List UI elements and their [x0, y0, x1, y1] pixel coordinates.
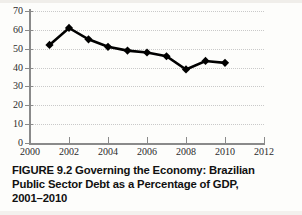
page-bottom-edge [0, 211, 302, 215]
x-axis-tick-label: 2002 [52, 146, 86, 157]
x-axis-tick-label: 2006 [130, 146, 164, 157]
y-axis-tick-label: 10 [1, 118, 23, 129]
gridline [30, 49, 264, 50]
data-point-marker [162, 52, 170, 60]
caption-line-2: Public Sector Debt as a Percentage of GD… [12, 177, 294, 191]
gridline [30, 105, 264, 106]
caption-line-3: 2001–2010 [12, 191, 294, 205]
y-axis-tick-label: 30 [1, 80, 23, 91]
x-axis-tick-label: 2000 [13, 146, 47, 157]
y-axis-tick-label: 50 [1, 43, 23, 54]
y-axis-line [29, 9, 31, 145]
y-axis-tick-label: 60 [1, 24, 23, 35]
caption-line-1: FIGURE 9.2 Governing the Economy: Brazil… [12, 163, 294, 177]
data-series-svg [0, 0, 302, 160]
figure-caption: FIGURE 9.2 Governing the Economy: Brazil… [12, 163, 294, 206]
y-axis-tick-label: 40 [1, 62, 23, 73]
x-axis-tick-label: 2004 [91, 146, 125, 157]
gridline [30, 68, 264, 69]
gridline [30, 124, 264, 125]
x-axis-tick-label: 2012 [247, 146, 281, 157]
gridline [30, 30, 264, 31]
x-axis-line [29, 143, 265, 145]
figure-page: 010203040506070 200020022004200620082010… [0, 0, 302, 215]
line-chart: 010203040506070 200020022004200620082010… [0, 0, 302, 160]
data-point-marker [84, 35, 92, 43]
data-point-marker [201, 57, 209, 65]
gridline [30, 86, 264, 87]
gridline [30, 11, 264, 12]
x-axis-tick-label: 2010 [208, 146, 242, 157]
y-axis-tick-label: 70 [1, 5, 23, 16]
y-axis-tick-label: 20 [1, 99, 23, 110]
data-point-marker [221, 59, 229, 67]
x-axis-tick-label: 2008 [169, 146, 203, 157]
